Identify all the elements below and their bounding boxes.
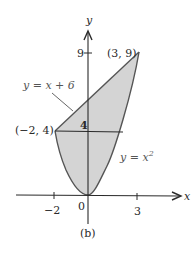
line-label-leader: [52, 93, 73, 111]
x-axis-label: x: [184, 190, 191, 203]
point-label-3-9: (3, 9): [107, 47, 137, 60]
y-axis-label: y: [85, 14, 93, 27]
parabola-equation-exponent: 2: [148, 149, 154, 158]
y-tick-label-9: 9: [77, 47, 84, 60]
y-tick-label-4: 4: [80, 119, 88, 132]
parabola-equation-base: y = x: [119, 151, 149, 164]
x-tick-label-0: 0: [78, 200, 85, 213]
region-between-curves-figure: y x 9 4 −2 0 3 (3, 9) (−2, 4) y = x + 6 …: [0, 0, 194, 253]
x-axis: [16, 195, 180, 196]
line-equation-label: y = x + 6: [22, 79, 75, 92]
diagram-canvas: y x 9 4 −2 0 3 (3, 9) (−2, 4) y = x + 6 …: [0, 0, 194, 253]
x-tick-label-3: 3: [134, 205, 141, 218]
point-label-neg2-4: (−2, 4): [15, 124, 54, 137]
figure-caption: (b): [80, 227, 96, 240]
parabola-equation-label: y = x2: [119, 149, 154, 164]
x-tick-label-neg2: −2: [44, 204, 60, 217]
